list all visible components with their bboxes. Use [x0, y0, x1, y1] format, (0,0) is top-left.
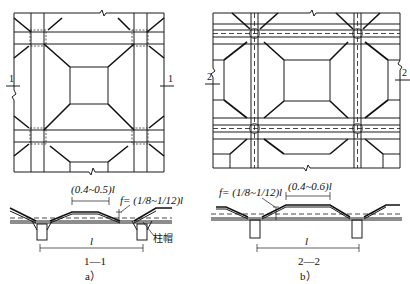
section-label-a: 1—1 [84, 255, 106, 267]
dim-top-b: (0.4~0.6)l [288, 180, 332, 193]
rise-label-a: f= (1/8~1/12)l [120, 194, 183, 207]
section-a: (0.4~0.5)l f= (1/8~1/12)l 柱帽 l 1—1 a） [10, 183, 183, 282]
dim-top-a: (0.4~0.5)l [71, 183, 115, 196]
section-mark-1-right: 1 [168, 73, 173, 84]
section-mark-1-left: 1 [9, 73, 14, 84]
span-label-b: l [305, 235, 308, 247]
column-cap-label: 柱帽 [153, 232, 173, 244]
caption-b: b） [300, 270, 317, 282]
section-mark-2-right: 2 [402, 67, 407, 78]
caption-a: a） [85, 270, 101, 282]
section-label-b: 2—2 [298, 255, 320, 267]
span-label-a: l [90, 235, 93, 247]
section-mark-2-left: 2 [207, 71, 212, 82]
plan-a: 1 1 [6, 10, 174, 175]
diagram-canvas: 1 1 [0, 0, 410, 284]
plan-b: 2 2 [205, 10, 410, 171]
section-b: f= (1/8~1/12)l (0.4~0.6)l l 2—2 b） [211, 180, 402, 282]
rise-label-b: f= (1/8~1/12)l [219, 186, 282, 199]
